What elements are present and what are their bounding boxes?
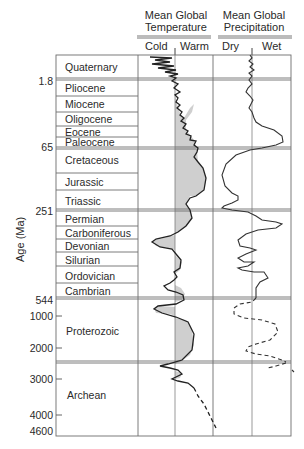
period-archean: Archean <box>67 389 106 401</box>
chart-graphics <box>0 0 304 449</box>
period-triassic: Triassic <box>65 195 101 207</box>
period-miocene: Miocene <box>65 98 105 110</box>
period-jurassic: Jurassic <box>65 176 104 188</box>
period-permian: Permian <box>65 213 104 225</box>
period-proterozoic: Proterozoic <box>66 325 119 337</box>
period-oligocene: Oligocene <box>65 113 112 125</box>
period-devonian: Devonian <box>65 240 109 252</box>
precipitation-curve <box>222 55 283 298</box>
header-rules <box>137 36 292 38</box>
period-ordovician: Ordovician <box>65 270 115 282</box>
period-paleocene: Paleocene <box>65 136 115 148</box>
period-quaternary: Quaternary <box>65 61 118 73</box>
period-carboniferous: Carboniferous <box>65 227 131 239</box>
y-ticks <box>56 316 62 415</box>
period-silurian: Silurian <box>65 254 100 266</box>
period-cretaceous: Cretaceous <box>65 154 119 166</box>
period-pliocene: Pliocene <box>65 82 105 94</box>
period-cambrian: Cambrian <box>65 285 111 297</box>
temperature-shading <box>152 95 206 379</box>
